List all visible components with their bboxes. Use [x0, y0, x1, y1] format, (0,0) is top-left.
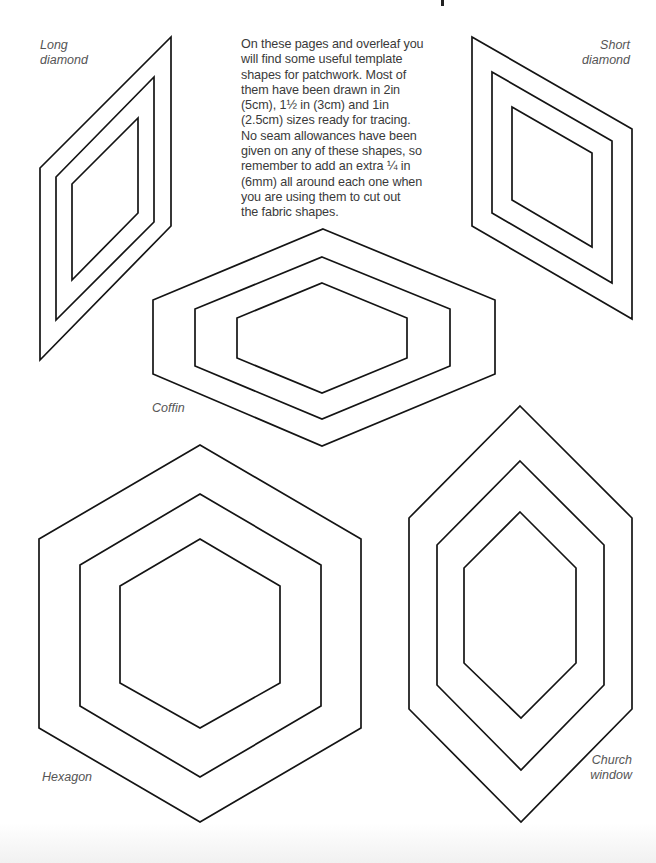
- church-window-inner-1in: [464, 512, 576, 718]
- intro-line: (6mm) all around each one when: [241, 175, 441, 190]
- intro-line: you are using them to cut out: [241, 190, 441, 205]
- label-line: Long: [40, 38, 88, 53]
- coffin-template: [153, 229, 495, 446]
- intro-paragraph: On these pages and overleaf you will fin…: [241, 37, 441, 221]
- short-diamond-template: [472, 37, 632, 319]
- coffin-label: Coffin: [152, 401, 185, 416]
- label-line: Church: [590, 753, 632, 768]
- coffin-outer-2in: [153, 229, 495, 446]
- label-line: Coffin: [152, 401, 185, 416]
- intro-line: given on any of these shapes, so: [241, 144, 441, 159]
- short-diamond-label: Short diamond: [582, 38, 630, 67]
- coffin-middle-1-5in: [195, 257, 450, 419]
- intro-line: (5cm), 1½ in (3cm) and 1in: [241, 98, 441, 113]
- short-diamond-inner-1in: [512, 107, 592, 247]
- intro-line: will find some useful template: [241, 52, 441, 67]
- label-line: diamond: [582, 53, 630, 68]
- short-diamond-outer-2in: [472, 37, 632, 319]
- intro-line: the fabric shapes.: [241, 205, 441, 220]
- intro-line: them have been drawn in 2in: [241, 83, 441, 98]
- label-line: diamond: [40, 53, 88, 68]
- intro-line: remember to add an extra ¼ in: [241, 159, 441, 174]
- hexagon-label: Hexagon: [42, 770, 92, 785]
- long-diamond-label: Long diamond: [40, 38, 88, 67]
- hexagon-inner-1in: [120, 539, 280, 728]
- long-diamond-inner-1in: [72, 118, 138, 280]
- coffin-inner-1in: [237, 283, 407, 393]
- church-window-middle-1-5in: [437, 461, 604, 770]
- intro-line: shapes for patchwork. Most of: [241, 68, 441, 83]
- hexagon-outer-2in: [39, 445, 361, 822]
- label-line: Short: [582, 38, 630, 53]
- label-line: window: [590, 768, 632, 783]
- hexagon-middle-1-5in: [80, 494, 321, 777]
- label-line: Hexagon: [42, 770, 92, 785]
- short-diamond-middle-1-5in: [492, 72, 612, 283]
- hexagon-template: [39, 445, 361, 822]
- long-diamond-middle-1-5in: [56, 77, 154, 320]
- intro-line: (2.5cm) sizes ready for tracing.: [241, 113, 441, 128]
- long-diamond-outer-2in: [40, 37, 171, 360]
- church-window-label: Church window: [590, 753, 632, 782]
- intro-line: No seam allowances have been: [241, 129, 441, 144]
- page-bottom-shadow: [0, 823, 656, 863]
- long-diamond-template: [40, 37, 171, 360]
- intro-line: On these pages and overleaf you: [241, 37, 441, 52]
